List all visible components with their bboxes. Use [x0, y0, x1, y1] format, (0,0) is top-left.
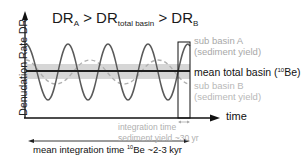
legend-sub-basin-b: sub basin B (sediment yield)	[194, 80, 261, 102]
legend-sub-basin-b-note: (sediment yield)	[194, 91, 261, 102]
integration-time-line1: integration time	[118, 122, 199, 133]
integration-time-line2: sediment yield ~30 yr	[118, 133, 199, 144]
integration-time-annotation: integration time sediment yield ~30 yr	[118, 122, 199, 143]
diagram-title: DRA > DRtotal basin > DRB	[52, 10, 198, 28]
legend-sub-basin-a-note: (sediment yield)	[194, 46, 261, 57]
mean-integration-annotation: mean integration time 10Be ~2-3 kyr	[33, 145, 182, 155]
x-axis-label: time	[226, 111, 247, 122]
mean-integration-arrow-left-icon	[28, 139, 34, 143]
legend-sub-basin-b-name: sub basin B	[194, 80, 261, 91]
legend-sub-basin-a-name: sub basin A	[194, 35, 261, 46]
y-axis-label: Denudation Rate DR	[18, 7, 29, 127]
x-axis-arrow-icon	[210, 115, 220, 122]
integration-window	[178, 42, 190, 118]
legend-sub-basin-a: sub basin A (sediment yield)	[194, 35, 261, 57]
legend-mean-total-basin: mean total basin (10Be)	[194, 67, 301, 78]
